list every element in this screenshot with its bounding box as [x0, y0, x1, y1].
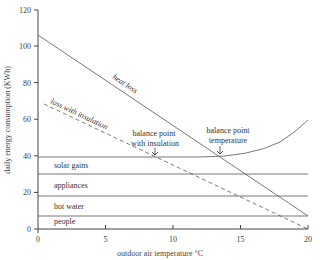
appliances-label: appliances	[54, 181, 88, 190]
balance-point-label-1: balance point	[207, 126, 251, 135]
people-label: people	[54, 217, 76, 226]
x-axis-label: outdoor air temperature °C	[117, 249, 203, 258]
balance-point-insulation-label-2: with insulation	[131, 139, 179, 148]
x-tick-5: 5	[104, 235, 108, 244]
y-tick-40: 40	[23, 152, 31, 161]
y-tick-20: 20	[23, 188, 31, 197]
heat-loss-label: heat loss	[111, 72, 139, 95]
y-ticks	[34, 10, 38, 229]
arrow-icon	[217, 146, 223, 154]
arrow-icon	[152, 148, 158, 155]
x-tick-20: 20	[304, 235, 312, 244]
solar-gains-label: solar gains	[54, 161, 88, 170]
x-tick-10: 10	[169, 235, 177, 244]
y-axis-label: daily energy consumption (KWh)	[3, 66, 12, 174]
x-tick-0: 0	[36, 235, 40, 244]
chart: 0 20 40 60 80 100 120 0 5 10 15 20 outdo…	[0, 0, 320, 260]
y-tick-100: 100	[19, 42, 31, 51]
x-tick-15: 15	[237, 235, 245, 244]
hot-water-label: hot water	[54, 202, 84, 211]
balance-point-insulation-label-1: balance point	[133, 129, 177, 138]
balance-point-label-2: temperature	[209, 136, 248, 145]
y-tick-0: 0	[27, 225, 31, 234]
y-tick-80: 80	[23, 79, 31, 88]
y-tick-60: 60	[23, 115, 31, 124]
loss-with-insulation-label: loss with insulation	[49, 97, 109, 132]
y-tick-120: 120	[19, 6, 31, 15]
